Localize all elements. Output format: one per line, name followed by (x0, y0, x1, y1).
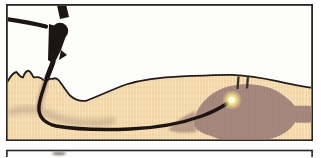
panel-1 (6, 4, 313, 142)
abdominal-mark-right (247, 76, 248, 89)
abdominal-mark-left (238, 77, 239, 90)
figure-root (0, 0, 321, 157)
transillumination-core (228, 97, 234, 103)
panel-2-cropped (7, 151, 312, 158)
panel-2-scope-smudge (52, 152, 66, 156)
peg-procedure-illustration (0, 0, 321, 157)
